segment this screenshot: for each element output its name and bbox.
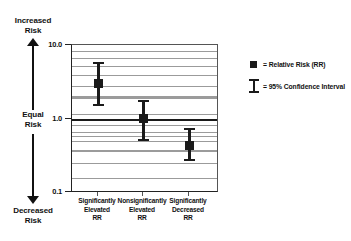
gridline-05 xyxy=(72,163,218,164)
gridline-6 xyxy=(72,75,218,76)
gridline-06 xyxy=(72,151,218,152)
legend-item-confidence-interval: = 95% Confidence Interval xyxy=(248,78,345,94)
gridline-09 xyxy=(72,125,218,126)
gridline-04 xyxy=(72,178,218,179)
ci-cap-bottom-2 xyxy=(138,139,149,141)
arrow-down-icon xyxy=(27,196,39,204)
ci-cap-bottom-1 xyxy=(93,104,104,106)
rr-marker-2 xyxy=(139,114,148,123)
x-tick-1 xyxy=(97,192,98,196)
ci-cap-bottom-3 xyxy=(184,159,195,161)
gridline-4 xyxy=(72,98,218,99)
x-tick-3 xyxy=(188,192,189,196)
y-axis-label-10: 10.0 xyxy=(34,40,62,49)
gridline-2 xyxy=(72,136,218,137)
legend-label-confidence-interval: = 95% Confidence Interval xyxy=(263,83,345,90)
chart-figure: Increased Risk Equal Risk Decreased Risk… xyxy=(0,0,351,241)
arrow-up-shaft xyxy=(32,44,34,110)
gridline-08 xyxy=(72,132,218,133)
x-label-3-line1: Significantly xyxy=(157,197,219,206)
gridline-06b xyxy=(72,150,218,151)
gridline-4c xyxy=(72,97,218,98)
gridline-9 xyxy=(72,51,218,52)
legend-item-relative-risk: = Relative Risk (RR) xyxy=(248,56,325,72)
increased-risk-line2: Risk xyxy=(2,26,64,36)
plot-area xyxy=(71,44,218,192)
gridline-7 xyxy=(72,66,218,67)
x-label-3-line2: Decreased xyxy=(157,206,219,215)
x-label-3-line3: RR xyxy=(157,214,219,223)
decreased-risk-label: Decreased Risk xyxy=(2,206,64,225)
x-axis-label-significantly-decreased: Significantly Decreased RR xyxy=(157,197,219,223)
y-axis-label-01: 0.1 xyxy=(34,187,62,196)
decreased-risk-line1: Decreased xyxy=(2,206,64,216)
decreased-risk-line2: Risk xyxy=(2,216,64,226)
x-tick-2 xyxy=(142,192,143,196)
legend-label-relative-risk: = Relative Risk (RR) xyxy=(263,61,325,68)
legend-error-bar-icon xyxy=(248,78,262,94)
gridline-8 xyxy=(72,58,218,59)
rr-marker-3 xyxy=(185,141,194,150)
y-axis-label-1: 1.0 xyxy=(34,114,62,123)
increased-risk-label: Increased Risk xyxy=(2,16,64,35)
rr-marker-1 xyxy=(94,79,103,88)
increased-risk-line1: Increased xyxy=(2,16,64,26)
legend-square-icon xyxy=(248,56,262,72)
